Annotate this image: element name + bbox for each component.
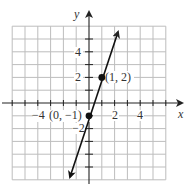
coordinate-plane: y x 4 2 −2 −4 2 4 (0, −1) (1, 2) [0,0,196,187]
x-tick-label-4: 4 [137,108,143,122]
x-tick-label-2: 2 [112,108,118,122]
point-0-neg1 [86,112,93,119]
point-label-0-neg1: (0, −1) [49,108,82,122]
y-tick-label-4: 4 [75,45,81,59]
x-axis-label: x [177,107,184,121]
y-tick-label-2: 2 [75,70,81,84]
y-axis-label: y [73,7,80,21]
x-tick-label-neg4: −4 [32,108,45,122]
point-label-1-2: (1, 2) [105,70,131,84]
y-tick-label-neg2: −2 [72,121,85,135]
